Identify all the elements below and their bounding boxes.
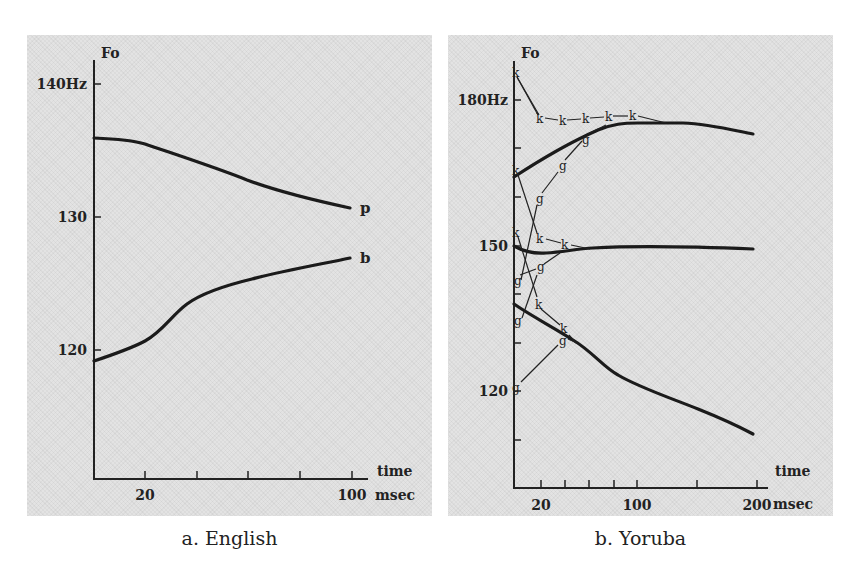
g-marker: g: [537, 260, 545, 274]
g-marker: g: [512, 381, 520, 395]
english-y-axis: [94, 60, 101, 480]
k-marker: k: [512, 66, 520, 80]
yoruba-low-tone-curve: [514, 304, 753, 434]
english-y-tick-120: 120: [58, 342, 87, 358]
english-x-axis: [94, 471, 368, 479]
g-marker: g: [582, 133, 590, 147]
english-label-p: p: [360, 199, 371, 217]
g-marker: g: [514, 274, 522, 288]
k-marker: k: [512, 164, 520, 178]
k-marker: k: [605, 110, 613, 124]
english-y-axis-label: Fo: [101, 45, 120, 61]
k-marker: k: [629, 109, 637, 123]
k-marker: k: [582, 112, 590, 126]
yoruba-mid-after-k: k k k: [512, 164, 590, 252]
english-curve-p: [94, 138, 350, 208]
yoruba-mid-tone-curve: [514, 246, 753, 253]
g-marker: g: [559, 159, 567, 173]
g-marker: g: [514, 314, 522, 328]
yoruba-y-tick-180: 180Hz: [458, 92, 508, 108]
yoruba-y-tick-120: 120: [479, 383, 508, 399]
yoruba-plot: Fo 180Hz 150 120 20 100 200 time msec k …: [448, 35, 833, 516]
g-marker: g: [559, 334, 567, 348]
english-x-label-msec: msec: [375, 487, 415, 503]
yoruba-high-tone-curve: [514, 123, 753, 177]
yoruba-x-label-time: time: [775, 463, 811, 479]
caption-yoruba: b. Yoruba: [448, 527, 833, 549]
k-marker: k: [535, 298, 543, 312]
english-label-b: b: [360, 249, 371, 267]
yoruba-y-axis-label: Fo: [521, 45, 540, 61]
english-x-tick-100: 100: [337, 487, 366, 503]
english-curve-b: [94, 258, 350, 361]
g-marker: g: [536, 192, 544, 206]
yoruba-x-label-msec: msec: [773, 496, 813, 512]
yoruba-x-tick-20: 20: [531, 497, 551, 513]
english-y-tick-140: 140Hz: [37, 76, 87, 92]
yoruba-low-after-g: g g: [512, 334, 575, 395]
english-plot: Fo 140Hz 130 120 20 100 time msec p b: [27, 35, 432, 516]
k-marker: k: [512, 226, 520, 240]
english-x-label-time: time: [377, 463, 413, 479]
english-y-tick-130: 130: [58, 209, 87, 225]
yoruba-x-tick-100: 100: [622, 497, 651, 513]
k-marker: k: [559, 114, 567, 128]
yoruba-x-tick-200: 200: [742, 497, 771, 513]
panel-yoruba: Fo 180Hz 150 120 20 100 200 time msec k …: [448, 35, 833, 516]
yoruba-y-tick-150: 150: [479, 238, 508, 254]
yoruba-high-after-k: k k k k k k: [512, 66, 666, 128]
k-marker: k: [536, 112, 544, 126]
k-marker: k: [536, 232, 544, 246]
panel-english: Fo 140Hz 130 120 20 100 time msec p b: [27, 35, 432, 516]
english-x-tick-20: 20: [135, 487, 155, 503]
yoruba-x-axis: [514, 480, 768, 488]
caption-english: a. English: [27, 527, 432, 549]
k-marker: k: [561, 238, 569, 252]
